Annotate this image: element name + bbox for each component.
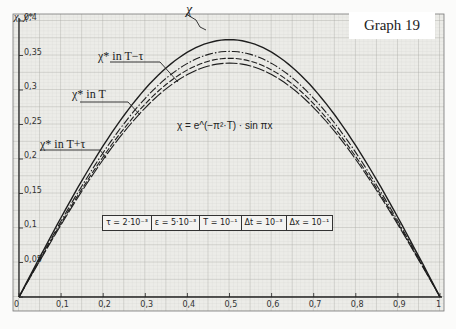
svg-text:0,5: 0,5	[225, 300, 238, 309]
parameter-box: τ = 2·10⁻³ ε = 5·10⁻³ T = 10⁻¹ Δt = 10⁻³…	[102, 215, 333, 231]
param-T: T = 10⁻¹	[200, 216, 241, 230]
svg-text:0,9: 0,9	[393, 300, 406, 309]
svg-text:0,8: 0,8	[351, 300, 364, 309]
svg-text:0: 0	[14, 300, 19, 309]
svg-text:0,6: 0,6	[267, 300, 280, 309]
svg-text:0,7: 0,7	[309, 300, 322, 309]
graph-title: Graph 19	[349, 12, 435, 39]
label-chi: χ	[184, 2, 193, 17]
label-chi-star-t-minus-tau: χ* in T−τ	[97, 49, 144, 63]
chart-plot: 0,050,10,150,20,250,30,350,4 00,10,20,30…	[0, 0, 456, 329]
y-axis-label: χ, χ*	[13, 11, 33, 22]
param-dx: Δx = 10⁻¹	[287, 216, 333, 230]
label-chi-star-t-plus-tau: χ* in T+τ	[39, 137, 86, 151]
svg-text:0,35: 0,35	[24, 48, 42, 57]
svg-text:0,2: 0,2	[24, 151, 37, 160]
svg-text:0,1: 0,1	[24, 220, 37, 229]
formula: χ = e^(−π²·T) · sin πx	[177, 120, 272, 131]
label-chi-star-t: χ* in T	[71, 87, 106, 101]
param-tau: τ = 2·10⁻³	[103, 216, 152, 230]
param-epsilon: ε = 5·10⁻³	[152, 216, 200, 230]
param-dt: Δt = 10⁻³	[242, 216, 287, 230]
svg-text:0,25: 0,25	[24, 117, 42, 126]
svg-text:0,3: 0,3	[140, 300, 153, 309]
svg-text:0,15: 0,15	[24, 186, 42, 195]
svg-text:0,1: 0,1	[56, 300, 69, 309]
svg-text:0,3: 0,3	[24, 82, 37, 91]
svg-text:1: 1	[436, 300, 441, 309]
svg-text:0,2: 0,2	[98, 300, 111, 309]
svg-text:0,4: 0,4	[182, 300, 195, 309]
